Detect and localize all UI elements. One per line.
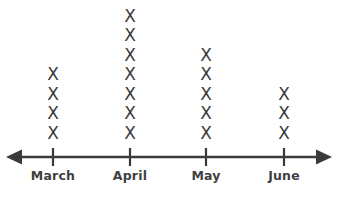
x-mark: X (200, 104, 212, 124)
x-mark-column-may: X X X X X (189, 46, 223, 144)
x-mark: X (124, 46, 136, 66)
x-mark: X (124, 65, 136, 85)
axis-tick-label-may: May (161, 168, 251, 183)
axis-arrowhead-right (316, 150, 332, 165)
x-mark: X (278, 124, 290, 144)
x-mark: X (200, 85, 212, 105)
x-mark-column-april: X X X X X X X (113, 7, 147, 144)
x-mark: X (124, 124, 136, 144)
x-mark: X (278, 104, 290, 124)
x-mark: X (47, 65, 59, 85)
x-mark-column-june: X X X (267, 85, 301, 144)
x-mark-column-march: X X X X (36, 65, 70, 143)
axis-tick-label-june: June (239, 168, 329, 183)
x-mark: X (124, 85, 136, 105)
axis-arrowhead-left (6, 150, 22, 165)
x-mark: X (47, 124, 59, 144)
x-mark: X (200, 46, 212, 66)
x-mark: X (124, 104, 136, 124)
x-mark: X (278, 85, 290, 105)
line-plot-chart: X X X X X X X X X X X X X X X X X X X Ma… (0, 0, 338, 197)
x-mark: X (200, 124, 212, 144)
x-mark: X (47, 85, 59, 105)
x-mark: X (124, 7, 136, 27)
x-mark: X (47, 104, 59, 124)
x-mark: X (200, 65, 212, 85)
x-mark: X (124, 26, 136, 46)
